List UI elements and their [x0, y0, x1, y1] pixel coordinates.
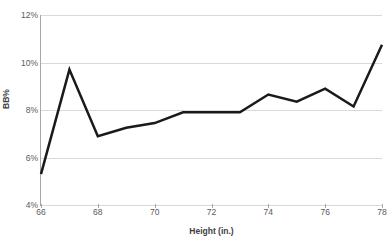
line-chart: BB% 4%6%8%10%12% 66687072747678 Height (… [0, 0, 390, 245]
y-tick-label-12%: 12% [12, 11, 38, 20]
x-tick-mark-74 [268, 204, 269, 208]
plot-area [41, 15, 382, 205]
y-tick-label-8%: 8% [12, 106, 38, 115]
x-tick-mark-70 [155, 204, 156, 208]
series-polyline [41, 45, 382, 174]
x-tick-label-74: 74 [253, 208, 283, 217]
x-tick-label-72: 72 [197, 208, 227, 217]
x-tick-mark-68 [98, 204, 99, 208]
x-tick-label-68: 68 [83, 208, 113, 217]
x-tick-mark-66 [41, 204, 42, 208]
y-tick-label-6%: 6% [12, 153, 38, 162]
x-axis-title: Height (in.) [41, 226, 382, 236]
x-tick-mark-72 [212, 204, 213, 208]
x-tick-label-78: 78 [367, 208, 390, 217]
y-tick-label-10%: 10% [12, 58, 38, 67]
x-tick-label-76: 76 [310, 208, 340, 217]
x-tick-mark-78 [382, 204, 383, 208]
x-axis-tick-labels: 66687072747678 [41, 208, 382, 224]
x-tick-mark-76 [325, 204, 326, 208]
x-tick-label-66: 66 [26, 208, 56, 217]
series-line-bb-percent [41, 15, 382, 205]
x-tick-label-70: 70 [140, 208, 170, 217]
